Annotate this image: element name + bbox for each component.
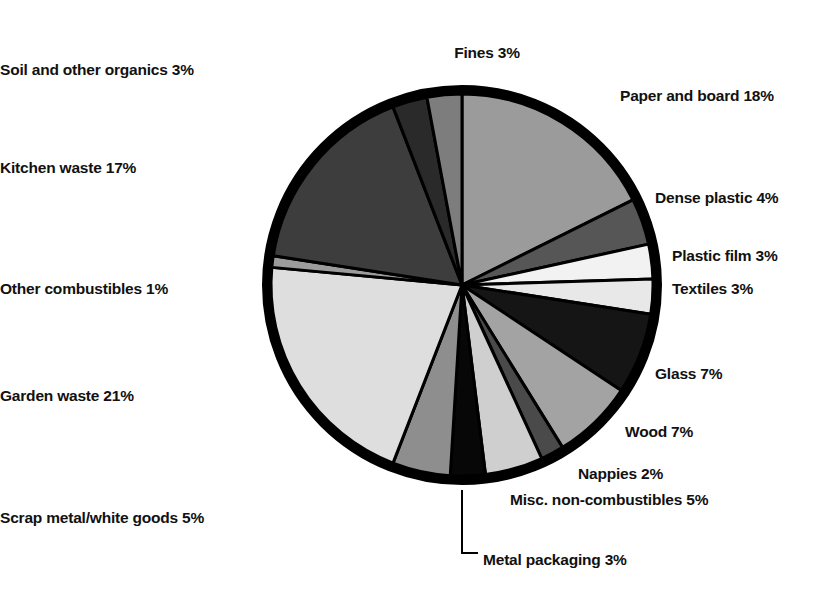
slice-label-other-comb: Other combustibles 1%: [0, 281, 248, 297]
slice-label-kitchen: Kitchen waste 17%: [0, 160, 262, 176]
slice-label-fines: Fines 3%: [337, 45, 637, 61]
slice-label-scrap-metal: Scrap metal/white goods 5%: [0, 510, 440, 526]
slice-label-metal-packaging: Metal packaging 3%: [483, 552, 627, 568]
slice-label-textiles: Textiles 3%: [672, 281, 753, 297]
slice-label-paper: Paper and board 18%: [620, 88, 774, 104]
slice-label-glass: Glass 7%: [655, 366, 722, 382]
pie-slices: [271, 94, 653, 476]
slice-label-soil: Soil and other organics 3%: [0, 62, 398, 78]
slice-label-garden: Garden waste 21%: [0, 388, 272, 404]
slice-label-nappies: Nappies 2%: [578, 466, 663, 482]
metal-packaging-leader: [462, 490, 478, 553]
slice-label-wood: Wood 7%: [625, 424, 693, 440]
slice-label-plastic-film: Plastic film 3%: [672, 248, 778, 264]
slice-label-misc-noncomb: Misc. non-combustibles 5%: [510, 492, 708, 508]
leader-lines: [462, 490, 478, 553]
slice-label-dense-plastic: Dense plastic 4%: [655, 190, 778, 206]
chart-page: Fines 3%Soil and other organics 3%Paper …: [0, 0, 826, 603]
